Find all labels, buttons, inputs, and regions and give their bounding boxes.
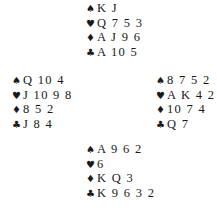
spade-icon: ♠ [86, 143, 97, 158]
diamond-icon: ♦ [86, 31, 97, 46]
south-clubs-row: ♣K 9 6 3 2 [86, 186, 155, 201]
south-spades-row: ♠A 9 6 2 [86, 142, 155, 157]
north-clubs: A 10 5 [97, 45, 138, 60]
west-spades: Q 10 4 [23, 73, 65, 88]
east-diamonds-row: ♦10 7 4 [156, 102, 215, 117]
west-clubs-row: ♣J 8 4 [12, 117, 73, 132]
club-icon: ♣ [86, 46, 97, 61]
east-clubs-row: ♣Q 7 [156, 117, 215, 132]
diamond-icon: ♦ [156, 103, 167, 118]
club-icon: ♣ [86, 187, 97, 202]
west-spades-row: ♠Q 10 4 [12, 73, 73, 88]
west-diamonds: 8 5 2 [23, 102, 55, 117]
east-clubs: Q 7 [167, 117, 189, 132]
south-spades: A 9 6 2 [97, 142, 143, 157]
spade-icon: ♠ [12, 74, 23, 89]
heart-icon: ♥ [86, 158, 97, 173]
west-diamonds-row: ♦8 5 2 [12, 102, 73, 117]
south-diamonds: K Q 3 [97, 171, 134, 186]
east-hearts: A K 4 2 [167, 88, 215, 103]
north-clubs-row: ♣A 10 5 [86, 45, 143, 60]
north-hand: ♠K J ♥Q 7 5 3 ♦A J 9 6 ♣A 10 5 [86, 1, 143, 59]
north-spades-row: ♠K J [86, 1, 143, 16]
north-diamonds-row: ♦A J 9 6 [86, 30, 143, 45]
spade-icon: ♠ [156, 74, 167, 89]
west-hand: ♠Q 10 4 ♥J 10 9 8 ♦8 5 2 ♣J 8 4 [12, 73, 73, 131]
spade-icon: ♠ [86, 2, 97, 17]
west-hearts-row: ♥J 10 9 8 [12, 88, 73, 103]
south-hearts-row: ♥6 [86, 157, 155, 172]
south-hand: ♠A 9 6 2 ♥6 ♦K Q 3 ♣K 9 6 3 2 [86, 142, 155, 200]
south-hearts: 6 [97, 157, 105, 172]
heart-icon: ♥ [12, 89, 23, 104]
north-diamonds: A J 9 6 [97, 30, 141, 45]
diamond-icon: ♦ [86, 172, 97, 187]
west-clubs: J 8 4 [23, 117, 53, 132]
east-hearts-row: ♥A K 4 2 [156, 88, 215, 103]
east-diamonds: 10 7 4 [167, 102, 206, 117]
east-spades: 8 7 5 2 [167, 73, 210, 88]
diamond-icon: ♦ [12, 103, 23, 118]
north-hearts-row: ♥Q 7 5 3 [86, 16, 143, 31]
east-hand: ♠8 7 5 2 ♥A K 4 2 ♦10 7 4 ♣Q 7 [156, 73, 215, 131]
south-diamonds-row: ♦K Q 3 [86, 171, 155, 186]
club-icon: ♣ [12, 118, 23, 133]
north-spades: K J [97, 1, 118, 16]
north-hearts: Q 7 5 3 [97, 16, 143, 31]
club-icon: ♣ [156, 118, 167, 133]
south-clubs: K 9 6 3 2 [97, 186, 155, 201]
heart-icon: ♥ [86, 17, 97, 32]
west-hearts: J 10 9 8 [23, 88, 73, 103]
east-spades-row: ♠8 7 5 2 [156, 73, 215, 88]
heart-icon: ♥ [156, 89, 167, 104]
